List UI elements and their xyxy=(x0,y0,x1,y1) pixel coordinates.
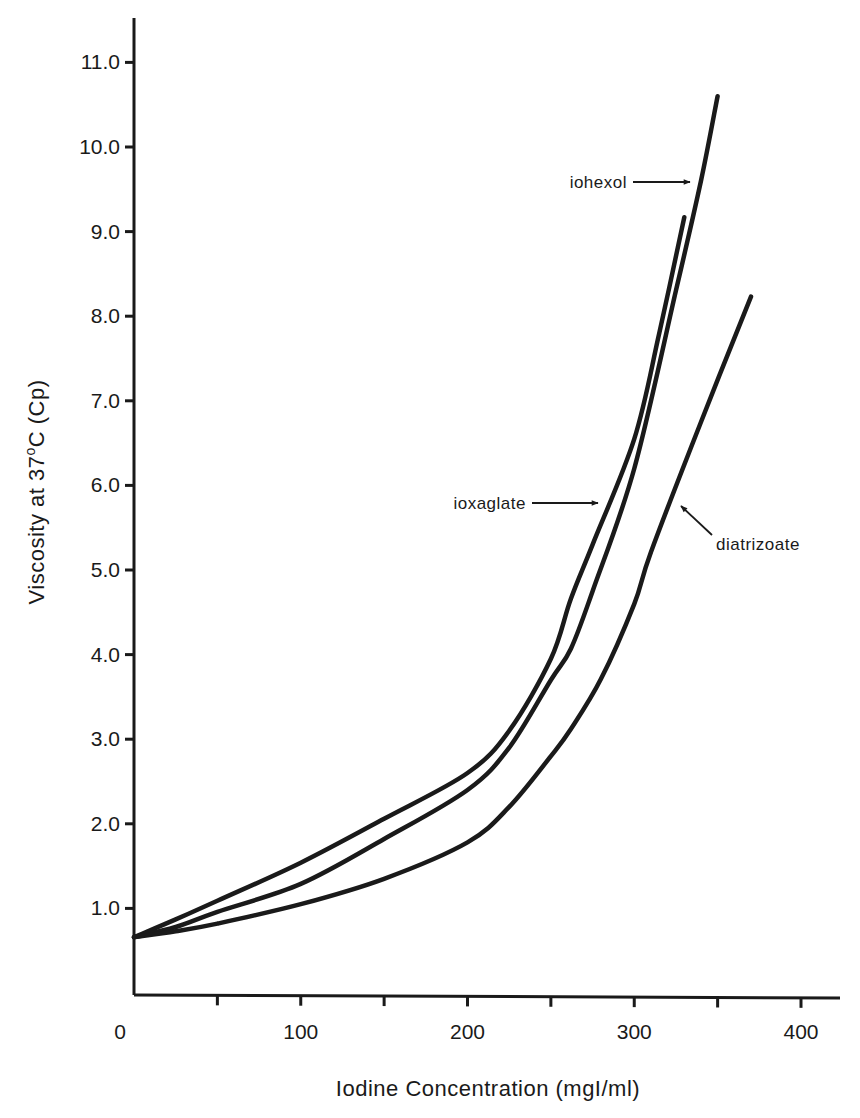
y-tick-label: 6.0 xyxy=(91,473,120,496)
y-axis-title-pre: Viscosity at 37 xyxy=(24,456,49,605)
annotation-iohexol: iohexol xyxy=(570,173,690,192)
curve-ioxaglate xyxy=(134,217,684,937)
degree-symbol: o xyxy=(22,447,38,455)
y-tick-label: 7.0 xyxy=(91,389,120,412)
y-tick-label: 9.0 xyxy=(91,220,120,243)
annotation-label: ioxaglate xyxy=(453,494,526,513)
y-axis-title-post: C (Cp) xyxy=(24,379,49,447)
x-tick-label: 300 xyxy=(617,1020,652,1043)
annotation-diatrizoate: diatrizoate xyxy=(681,506,800,554)
x-ticks: 0100200300400 xyxy=(114,995,818,1043)
y-tick-label: 8.0 xyxy=(91,304,120,327)
y-tick-label: 3.0 xyxy=(91,727,120,750)
y-tick-label: 2.0 xyxy=(91,812,120,835)
series-curves xyxy=(134,96,751,937)
y-ticks: 1.02.03.04.05.06.07.08.09.010.011.0 xyxy=(79,50,134,919)
annotation-label: diatrizoate xyxy=(716,535,800,554)
x-tick-label: 100 xyxy=(283,1020,318,1043)
y-tick-label: 4.0 xyxy=(91,643,120,666)
y-tick-label: 5.0 xyxy=(91,558,120,581)
y-tick-label: 10.0 xyxy=(79,135,120,158)
x-tick-label: 400 xyxy=(783,1020,818,1043)
y-tick-label: 11.0 xyxy=(81,50,120,73)
x-tick-label: 0 xyxy=(114,1020,126,1043)
annotation-ioxaglate: ioxaglate xyxy=(453,494,598,513)
y-axis-title: Viscosity at 37oC (Cp) xyxy=(22,379,49,604)
x-axis-title: Iodine Concentration (mgI/ml) xyxy=(336,1076,640,1101)
annotation-label: iohexol xyxy=(570,173,627,192)
viscosity-chart: 1.02.03.04.05.06.07.08.09.010.011.0 0100… xyxy=(0,0,860,1118)
x-tick-label: 200 xyxy=(450,1020,485,1043)
curve-iohexol xyxy=(134,96,718,937)
x-axis-line xyxy=(134,995,840,998)
annotation-arrow xyxy=(681,506,712,535)
curve-diatrizoate xyxy=(134,297,751,938)
y-tick-label: 1.0 xyxy=(91,896,120,919)
